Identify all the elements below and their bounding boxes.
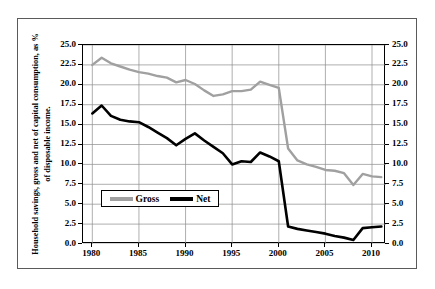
y-axis-right-tick-label: 7.5 (392, 179, 422, 188)
legend-item-net: Net (170, 194, 210, 204)
y-axis-left-tick-mark (78, 163, 82, 164)
y-axis-right-tick-label: 17.5 (392, 99, 422, 108)
x-axis-tick-label: 2010 (351, 249, 391, 258)
y-axis-right-tick-mark (385, 84, 389, 85)
y-axis-right-tick-label: 0.0 (392, 239, 422, 248)
y-axis-left-tick-label: 7.5 (46, 179, 76, 188)
line-swatch-gross-icon (110, 197, 133, 201)
x-axis-tick-mark (138, 243, 139, 247)
y-axis-right-tick-mark (385, 64, 389, 65)
y-axis-right-tick-mark (385, 124, 389, 125)
line-swatch-net-icon (170, 197, 193, 201)
y-axis-left-tick-label: 22.5 (46, 59, 76, 68)
y-axis-right-tick-label: 25.0 (392, 40, 422, 49)
y-axis-right-tick-label: 20.0 (392, 79, 422, 88)
y-axis-left-tick-label: 5.0 (46, 199, 76, 208)
y-axis-left-tick-mark (78, 124, 82, 125)
x-axis-tick-mark (231, 243, 232, 247)
y-axis-left-tick-mark (78, 203, 82, 204)
y-axis-left-tick-label: 10.0 (46, 159, 76, 168)
x-axis-tick-label: 1980 (71, 249, 111, 258)
y-axis-right-tick-mark (385, 163, 389, 164)
y-axis-right-tick-label: 15.0 (392, 119, 422, 128)
y-axis-left-tick-mark (78, 84, 82, 85)
chart-figure: Household savings, gross and net of capi… (0, 0, 435, 289)
x-axis-tick-label: 2005 (304, 249, 344, 258)
y-axis-left-tick-mark (78, 243, 82, 244)
legend-item-gross: Gross (110, 194, 160, 204)
legend-label-net: Net (196, 194, 210, 204)
chart-legend: Gross Net (101, 190, 219, 207)
plot-area (82, 44, 385, 243)
y-axis-left-tick-mark (78, 223, 82, 224)
x-axis-tick-label: 1985 (118, 249, 158, 258)
y-axis-right-tick-mark (385, 243, 389, 244)
y-axis-left-tick-label: 12.5 (46, 139, 76, 148)
y-axis-left-tick-mark (78, 64, 82, 65)
x-axis-tick-mark (185, 243, 186, 247)
x-axis-tick-label: 2000 (258, 249, 298, 258)
y-axis-left-tick-label: 2.5 (46, 219, 76, 228)
y-axis-left-tick-mark (78, 44, 82, 45)
x-axis-tick-label: 1990 (165, 249, 205, 258)
x-axis-tick-mark (91, 243, 92, 247)
y-axis-right-tick-label: 22.5 (392, 59, 422, 68)
y-axis-right-tick-mark (385, 183, 389, 184)
y-axis-right-tick-mark (385, 223, 389, 224)
y-axis-right-tick-mark (385, 104, 389, 105)
y-axis-right-tick-label: 5.0 (392, 199, 422, 208)
gridlines (83, 45, 386, 244)
y-axis-left-tick-label: 25.0 (46, 40, 76, 49)
x-axis-tick-mark (278, 243, 279, 247)
y-axis-left-tick-mark (78, 183, 82, 184)
y-axis-right-tick-mark (385, 44, 389, 45)
y-axis-left-tick-mark (78, 104, 82, 105)
y-axis-left-tick-mark (78, 144, 82, 145)
y-axis-left-tick-label: 15.0 (46, 119, 76, 128)
x-axis-tick-label: 1995 (211, 249, 251, 258)
y-axis-left-tick-label: 20.0 (46, 79, 76, 88)
x-axis-tick-mark (324, 243, 325, 247)
y-axis-right-tick-mark (385, 203, 389, 204)
y-axis-left-tick-label: 17.5 (46, 99, 76, 108)
x-axis-tick-mark (371, 243, 372, 247)
y-axis-right-tick-label: 10.0 (392, 159, 422, 168)
y-axis-right-tick-label: 12.5 (392, 139, 422, 148)
legend-label-gross: Gross (136, 194, 160, 204)
y-axis-left-tick-label: 0.0 (46, 239, 76, 248)
y-axis-right-tick-mark (385, 144, 389, 145)
y-axis-right-tick-label: 2.5 (392, 219, 422, 228)
plot-canvas (83, 45, 386, 244)
